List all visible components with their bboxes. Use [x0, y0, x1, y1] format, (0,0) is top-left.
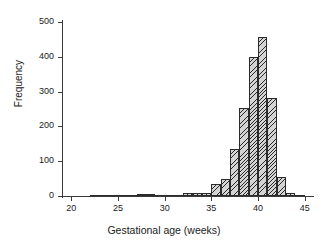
histogram-bar — [155, 195, 164, 196]
histogram-bar — [202, 193, 211, 196]
x-tick-label: 25 — [106, 203, 130, 213]
x-tick-label: 40 — [246, 203, 270, 213]
y-tick-label-wrap: 500 — [28, 17, 54, 26]
x-tick-label: 35 — [199, 203, 223, 213]
histogram-bar — [137, 194, 146, 196]
y-tick-mark — [58, 196, 62, 197]
y-tick-label: 0 — [28, 191, 54, 200]
histogram-bar — [277, 177, 286, 196]
x-tick-mark — [71, 197, 72, 201]
x-axis-title: Gestational age (weeks) — [0, 224, 328, 236]
y-tick-label: 400 — [28, 52, 54, 61]
histogram-bar — [239, 108, 248, 196]
x-axis-line — [60, 196, 314, 197]
x-tick-label: 30 — [153, 203, 177, 213]
x-tick-mark — [165, 197, 166, 201]
histogram-bar — [183, 193, 192, 196]
y-tick-label: 200 — [28, 121, 54, 130]
y-tick-label: 300 — [28, 87, 54, 96]
y-tick-label-wrap: 300 — [28, 87, 54, 96]
histogram-bar — [109, 195, 118, 196]
x-tick-mark — [305, 197, 306, 201]
histogram-bar — [193, 193, 202, 196]
histogram-bar — [295, 195, 304, 196]
histogram-figure: 0100200300400500 202530354045 Frequency … — [0, 0, 328, 250]
histogram-bar — [165, 195, 174, 196]
histogram-bar — [174, 195, 183, 196]
histogram-bar — [230, 149, 239, 196]
histogram-bar — [211, 184, 220, 196]
histogram-bar — [286, 193, 295, 196]
histogram-bar — [118, 195, 127, 196]
histogram-bar — [258, 37, 267, 196]
y-tick-label-wrap: 100 — [28, 156, 54, 165]
histogram-bar — [90, 195, 99, 196]
x-tick-mark — [118, 197, 119, 201]
x-tick-label: 20 — [59, 203, 83, 213]
histogram-bar — [146, 194, 155, 196]
x-tick-mark — [211, 197, 212, 201]
y-tick-label: 100 — [28, 156, 54, 165]
y-tick-label-wrap: 400 — [28, 52, 54, 61]
histogram-bar — [99, 195, 108, 196]
x-tick-mark — [258, 197, 259, 201]
histogram-bar — [249, 57, 258, 196]
bar-series — [62, 22, 314, 196]
y-axis-title: Frequency — [13, 38, 24, 130]
y-tick-label-wrap: 0 — [28, 191, 54, 200]
histogram-bar — [267, 98, 276, 196]
x-tick-label: 45 — [293, 203, 317, 213]
y-tick-label: 500 — [28, 17, 54, 26]
histogram-bar — [221, 179, 230, 196]
plot-area — [62, 22, 314, 196]
histogram-bar — [127, 195, 136, 196]
y-tick-label-wrap: 200 — [28, 121, 54, 130]
